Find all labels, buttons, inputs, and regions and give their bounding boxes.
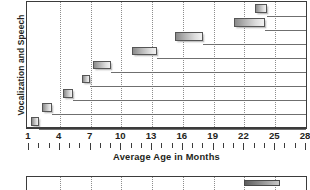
range-bar xyxy=(42,103,51,112)
x-tick-major xyxy=(59,143,60,150)
x-tick-minor xyxy=(131,143,132,148)
x-tick-minor xyxy=(233,143,234,148)
x-tick-major xyxy=(305,143,306,150)
range-bar xyxy=(93,61,111,70)
gridline-vertical xyxy=(121,177,122,190)
row-baseline xyxy=(157,58,306,59)
x-tick-minor xyxy=(254,143,255,148)
row-baseline xyxy=(267,16,306,17)
x-tick-minor xyxy=(284,143,285,148)
gridline-vertical xyxy=(183,2,184,127)
range-bar xyxy=(132,47,158,56)
gridline-vertical xyxy=(60,177,61,190)
gridline-vertical xyxy=(214,177,215,190)
range-bar xyxy=(244,180,280,186)
x-tick-minor xyxy=(161,143,162,148)
gridline-vertical xyxy=(91,2,92,127)
x-tick-label: 7 xyxy=(87,130,92,141)
gridline-vertical xyxy=(91,177,92,190)
secondary-plot-inner xyxy=(27,177,306,190)
x-tick-minor xyxy=(192,143,193,148)
x-tick-minor xyxy=(264,143,265,148)
x-tick-minor xyxy=(38,143,39,148)
x-tick-major xyxy=(28,143,29,150)
gridline-vertical xyxy=(214,2,215,127)
gridline-vertical xyxy=(275,2,276,127)
row-baseline xyxy=(203,44,306,45)
x-tick-minor xyxy=(100,143,101,148)
x-axis-title: Average Age in Months xyxy=(26,152,307,162)
range-bar xyxy=(234,18,265,27)
row-baseline xyxy=(73,100,306,101)
x-tick-minor xyxy=(295,143,296,148)
x-tick-major xyxy=(213,143,214,150)
x-tick-major xyxy=(274,143,275,150)
x-tick-label: 13 xyxy=(146,130,157,141)
x-tick-label: 22 xyxy=(238,130,249,141)
x-tick-minor xyxy=(79,143,80,148)
x-tick-minor xyxy=(141,143,142,148)
gridline-vertical xyxy=(152,177,153,190)
x-tick-label: 19 xyxy=(207,130,218,141)
plot-inner xyxy=(27,2,306,127)
x-tick-label: 16 xyxy=(177,130,188,141)
chart-page: Vocalization and Speech 1471013161922252… xyxy=(0,0,310,190)
x-tick-minor xyxy=(223,143,224,148)
row-baseline xyxy=(52,114,306,115)
range-bar xyxy=(255,4,267,13)
x-tick-minor xyxy=(202,143,203,148)
range-bar xyxy=(31,117,39,126)
x-tick-major xyxy=(243,143,244,150)
x-tick-major xyxy=(151,143,152,150)
range-bar xyxy=(82,75,89,84)
x-axis-tick-labels: 14710131619222528 xyxy=(26,130,307,143)
x-axis-ticks xyxy=(26,143,307,150)
x-tick-major xyxy=(182,143,183,150)
plot-area xyxy=(26,1,307,128)
gridline-vertical xyxy=(183,177,184,190)
row-baseline xyxy=(265,30,306,31)
x-tick-label: 25 xyxy=(269,130,280,141)
y-axis-title: Vocalization and Speech xyxy=(16,0,26,130)
secondary-plot-area xyxy=(26,176,307,190)
x-tick-label: 10 xyxy=(115,130,126,141)
x-tick-label: 1 xyxy=(25,130,30,141)
x-tick-minor xyxy=(172,143,173,148)
x-tick-minor xyxy=(69,143,70,148)
gridline-vertical xyxy=(60,2,61,127)
x-tick-major xyxy=(120,143,121,150)
row-baseline xyxy=(111,72,306,73)
gridline-vertical xyxy=(152,2,153,127)
x-tick-minor xyxy=(49,143,50,148)
range-bar xyxy=(63,89,73,98)
range-bar xyxy=(175,32,204,41)
x-tick-label: 4 xyxy=(56,130,61,141)
x-tick-label: 28 xyxy=(300,130,310,141)
x-tick-major xyxy=(90,143,91,150)
x-axis-line xyxy=(26,128,307,129)
row-baseline xyxy=(90,86,306,87)
x-tick-minor xyxy=(110,143,111,148)
gridline-vertical xyxy=(121,2,122,127)
